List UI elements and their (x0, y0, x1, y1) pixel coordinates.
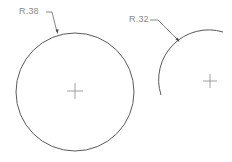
dimension-label-r32: R.32 (129, 15, 149, 24)
center-mark-icon (203, 74, 217, 88)
arc-r32[interactable] (159, 30, 223, 95)
leader-r32 (150, 20, 180, 42)
circle-r38-group[interactable] (16, 12, 134, 151)
drawing-svg (0, 0, 232, 162)
center-mark-icon (67, 83, 83, 99)
leader-r38 (46, 12, 59, 34)
dimension-label-r38: R.38 (19, 7, 39, 16)
arc-r32-group[interactable] (150, 20, 223, 95)
arrowhead-icon (56, 29, 59, 34)
